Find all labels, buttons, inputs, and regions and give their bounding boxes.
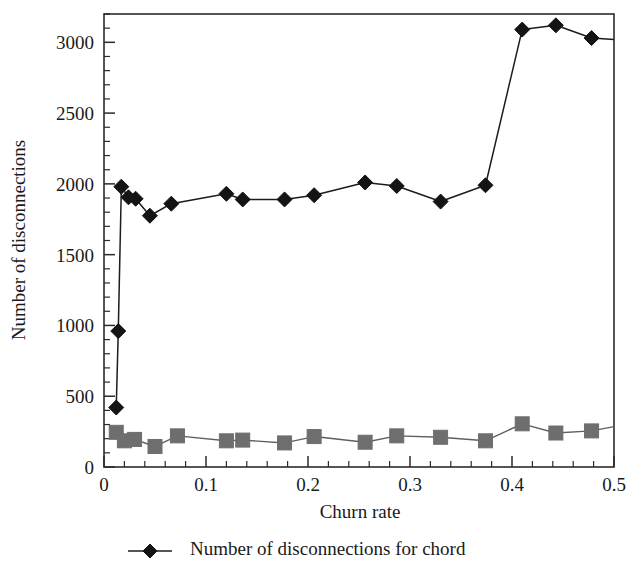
data-point-square	[307, 430, 321, 444]
y-tick-label-1500: 1500	[56, 245, 94, 266]
data-point-square	[170, 429, 184, 443]
data-point-diamond	[478, 178, 493, 193]
series-2	[109, 417, 614, 454]
y-tick-label-500: 500	[66, 386, 95, 407]
series-layer	[109, 18, 614, 454]
data-point-square	[358, 435, 372, 449]
plot-border	[104, 14, 614, 467]
x-tick-label-0.5: 0.5	[602, 474, 626, 495]
data-point-square	[390, 429, 404, 443]
y-axis-tick-labels: 050010001500200025003000	[56, 32, 94, 478]
chart-canvas: 050010001500200025003000 00.10.20.30.40.…	[0, 0, 640, 580]
x-axis-major-ticks	[104, 456, 614, 467]
y-tick-label-3000: 3000	[56, 32, 94, 53]
y-axis-minor-ticks	[104, 14, 110, 453]
data-point-square	[219, 434, 233, 448]
legend-label: Number of disconnections for chord	[190, 538, 466, 559]
data-point-diamond	[515, 22, 530, 37]
legend-marker-diamond	[143, 544, 157, 558]
series-line-1	[116, 25, 614, 407]
data-point-diamond	[433, 194, 448, 209]
data-point-diamond	[235, 192, 250, 207]
y-tick-label-2000: 2000	[56, 174, 94, 195]
data-point-square	[128, 432, 142, 446]
data-point-diamond	[164, 196, 179, 211]
data-point-square	[515, 417, 529, 431]
x-axis-tick-labels: 00.10.20.30.40.5	[99, 474, 626, 495]
x-axis-title: Churn rate	[320, 501, 401, 522]
series-1	[109, 18, 614, 415]
data-point-square	[434, 430, 448, 444]
plot-frame	[104, 14, 614, 467]
data-point-diamond	[548, 18, 563, 33]
legend-entry-1[interactable]: Number of disconnections for chord	[128, 538, 466, 559]
data-point-diamond	[109, 400, 124, 415]
y-tick-label-0: 0	[85, 457, 95, 478]
data-point-diamond	[584, 31, 599, 46]
y-axis-title: Number of disconnections	[8, 140, 29, 341]
data-point-diamond	[307, 188, 322, 203]
data-point-diamond	[389, 178, 404, 193]
chart-figure: 050010001500200025003000 00.10.20.30.40.…	[0, 0, 640, 580]
x-tick-label-0.3: 0.3	[398, 474, 422, 495]
data-point-diamond	[277, 192, 292, 207]
data-point-diamond	[219, 186, 234, 201]
chart-legend: Number of disconnections for chord	[128, 538, 466, 559]
x-tick-label-0.2: 0.2	[296, 474, 320, 495]
data-point-square	[585, 424, 599, 438]
y-tick-label-1000: 1000	[56, 315, 94, 336]
data-point-square	[549, 426, 563, 440]
data-point-square	[148, 439, 162, 453]
x-axis-minor-ticks	[124, 461, 593, 467]
data-point-diamond	[358, 175, 373, 190]
x-tick-label-0: 0	[99, 474, 109, 495]
data-point-square	[278, 436, 292, 450]
x-tick-label-0.1: 0.1	[194, 474, 218, 495]
data-point-square	[236, 433, 250, 447]
x-tick-label-0.4: 0.4	[500, 474, 524, 495]
y-tick-label-2500: 2500	[56, 103, 94, 124]
data-point-square	[478, 434, 492, 448]
